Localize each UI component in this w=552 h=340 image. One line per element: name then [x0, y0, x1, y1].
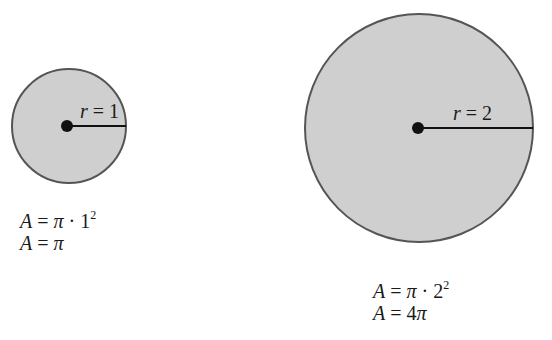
large-area-formula: A = π · 22 A = 4π — [373, 274, 449, 324]
small-center-dot — [61, 120, 73, 132]
circle-area-diagram: r = 1 r = 2 — [0, 0, 552, 340]
exponent: 2 — [90, 208, 96, 222]
radius-value: 2 — [433, 280, 443, 302]
area-symbol: A — [373, 280, 385, 302]
pi-symbol: π — [407, 280, 417, 302]
multiply-dot: · — [417, 280, 434, 302]
equals: = — [32, 210, 53, 232]
small-formula-line-1: A = π · 12 — [20, 204, 96, 232]
pi-symbol: π — [54, 232, 64, 254]
pi-symbol: π — [417, 302, 427, 324]
coefficient: 4 — [407, 302, 417, 324]
small-formula-line-2: A = π — [20, 232, 96, 254]
large-circle-group: r = 2 — [305, 14, 533, 242]
area-symbol: A — [20, 232, 32, 254]
radius-value: 1 — [80, 210, 90, 232]
equals: = — [385, 280, 406, 302]
multiply-dot: · — [64, 210, 81, 232]
equals: = — [32, 232, 53, 254]
area-symbol: A — [373, 302, 385, 324]
small-circle-group: r = 1 — [12, 69, 126, 183]
small-area-formula: A = π · 12 A = π — [20, 204, 96, 254]
exponent: 2 — [443, 278, 449, 292]
equals: = — [385, 302, 406, 324]
area-symbol: A — [20, 210, 32, 232]
large-center-dot — [412, 122, 424, 134]
large-formula-line-2: A = 4π — [373, 302, 449, 324]
large-radius-label: r = 2 — [453, 102, 492, 124]
large-formula-line-1: A = π · 22 — [373, 274, 449, 302]
small-radius-label: r = 1 — [80, 100, 119, 122]
pi-symbol: π — [54, 210, 64, 232]
